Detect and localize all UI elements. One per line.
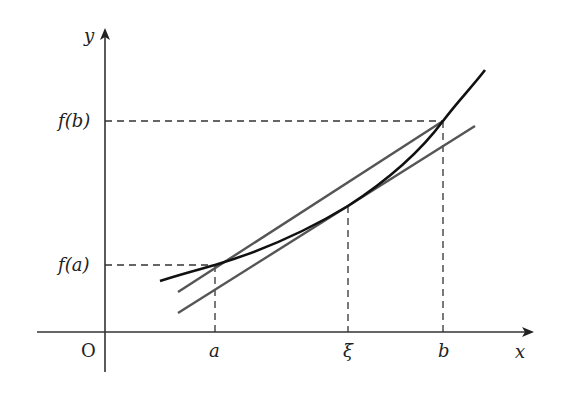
xi-label: ξ [343,340,354,361]
y-axis-label: y [83,25,95,46]
mean-value-theorem-diagram: y x O f(b) f(a) a ξ b [0,0,564,395]
b-label: b [438,340,450,361]
origin-label: O [81,340,96,361]
diagram-canvas: y x O f(b) f(a) a ξ b [0,0,564,395]
fb-label: f(b) [56,110,90,131]
fa-label: f(a) [56,254,89,275]
function-curve [160,70,485,281]
secant-line [178,121,443,292]
a-label: a [209,340,220,361]
x-axis-label: x [515,341,525,362]
